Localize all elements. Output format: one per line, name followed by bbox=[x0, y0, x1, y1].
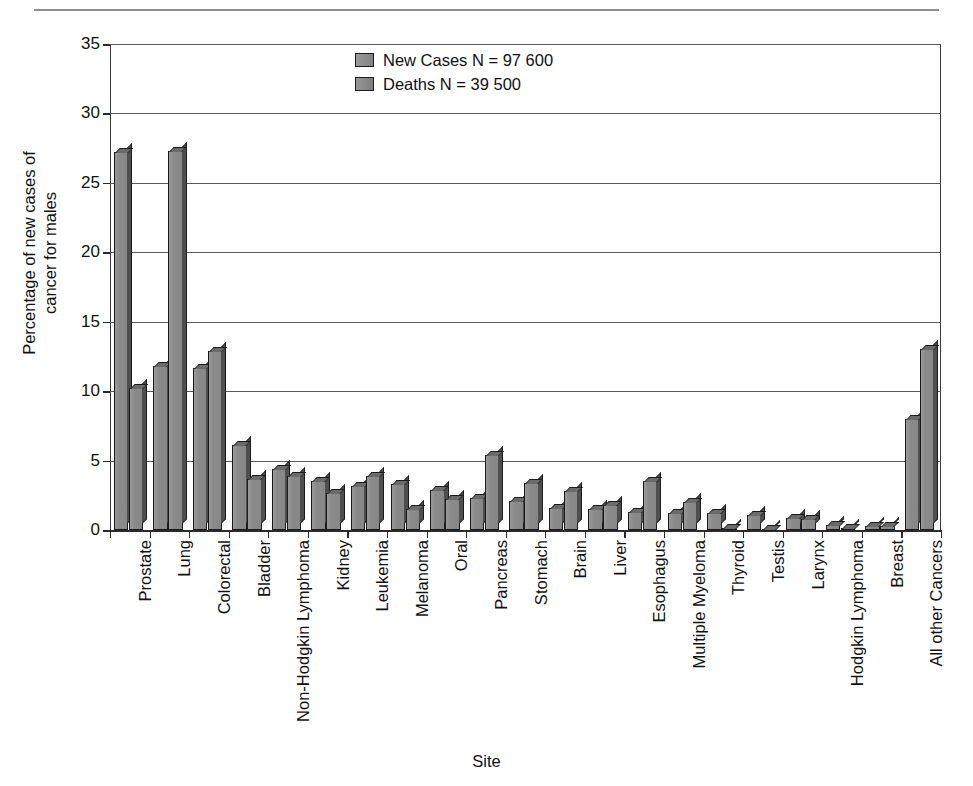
x-tick-17 bbox=[783, 530, 784, 538]
bar-new-cases-melanoma bbox=[391, 484, 406, 530]
y-tick-label-10: 10 bbox=[58, 382, 100, 399]
bar-face bbox=[802, 520, 815, 529]
gridline-15 bbox=[110, 322, 941, 323]
bar-face bbox=[446, 500, 459, 529]
category-label-lung: Lung bbox=[176, 540, 193, 577]
legend-swatch-new-cases bbox=[355, 53, 374, 67]
bar-new-cases-multiple-myeloma bbox=[668, 513, 683, 530]
bar-face bbox=[510, 502, 523, 529]
bar-deaths-testis bbox=[762, 529, 777, 531]
x-tick-11 bbox=[545, 530, 546, 538]
bar-face bbox=[273, 470, 286, 529]
bar-side-shadow bbox=[498, 446, 503, 524]
bar-face bbox=[921, 350, 934, 529]
bar-new-cases-brain bbox=[549, 508, 564, 530]
bar-new-cases-liver bbox=[588, 509, 603, 530]
gridline-0 bbox=[110, 530, 941, 532]
bar-deaths-lung bbox=[168, 151, 183, 530]
y-tick-mark-5 bbox=[103, 461, 110, 463]
bar-face bbox=[288, 477, 301, 529]
bar-face bbox=[486, 456, 499, 529]
y-tick-mark-25 bbox=[103, 183, 110, 185]
category-label-kidney: Kidney bbox=[335, 540, 352, 590]
bar-deaths-thyroid bbox=[722, 528, 737, 530]
gridline-25 bbox=[110, 183, 941, 184]
bar-deaths-all-other-cancers bbox=[920, 349, 935, 530]
legend-label-deaths: Deaths N = 39 500 bbox=[383, 72, 521, 96]
bar-side-shadow bbox=[182, 142, 187, 524]
bar-new-cases-non-hodgkin-lymphoma bbox=[272, 469, 287, 530]
bar-new-cases-thyroid bbox=[707, 513, 722, 530]
x-axis-title: Site bbox=[0, 752, 973, 771]
x-tick-10 bbox=[506, 530, 507, 538]
bar-face bbox=[525, 484, 538, 529]
bar-face bbox=[787, 519, 800, 529]
x-tick-6 bbox=[347, 530, 348, 538]
x-tick-20 bbox=[901, 530, 902, 538]
x-tick-14 bbox=[664, 530, 665, 538]
bar-deaths-breast bbox=[880, 526, 895, 530]
category-label-stomach: Stomach bbox=[533, 540, 550, 605]
x-tick-12 bbox=[585, 530, 586, 538]
category-label-thyroid: Thyroid bbox=[730, 540, 747, 595]
bar-side-shadow bbox=[933, 340, 938, 524]
bar-deaths-pancreas bbox=[485, 455, 500, 530]
bar-new-cases-bladder bbox=[232, 445, 247, 530]
bar-deaths-melanoma bbox=[406, 509, 421, 530]
category-label-prostate: Prostate bbox=[137, 540, 154, 601]
bar-face bbox=[684, 503, 697, 529]
bar-face bbox=[471, 499, 484, 529]
x-tick-1 bbox=[150, 530, 151, 538]
bar-face bbox=[194, 369, 207, 529]
category-label-leukemia: Leukemia bbox=[374, 540, 391, 612]
bar-side-shadow bbox=[221, 342, 226, 524]
x-tick-7 bbox=[387, 530, 388, 538]
x-tick-2 bbox=[189, 530, 190, 538]
legend-item-deaths: Deaths N = 39 500 bbox=[355, 72, 553, 96]
bar-new-cases-kidney bbox=[311, 481, 326, 530]
y-tick-mark-0 bbox=[103, 530, 110, 532]
gridline-20 bbox=[110, 252, 941, 253]
bar-side-shadow bbox=[142, 379, 147, 524]
y-tick-mark-10 bbox=[103, 391, 110, 393]
bar-face bbox=[906, 420, 919, 529]
x-tick-4 bbox=[268, 530, 269, 538]
category-label-all-other-cancers: All other Cancers bbox=[928, 540, 945, 667]
bar-face bbox=[367, 477, 380, 529]
bar-face bbox=[629, 513, 642, 529]
y-tick-mark-30 bbox=[103, 113, 110, 115]
bar-face bbox=[312, 482, 325, 529]
y-tick-label-20: 20 bbox=[58, 243, 100, 260]
legend-swatch-deaths bbox=[355, 77, 374, 91]
top-divider-rule bbox=[34, 9, 939, 11]
bar-face bbox=[392, 485, 405, 529]
x-tick-18 bbox=[822, 530, 823, 538]
y-axis-title: Percentage of new cases of cancer for ma… bbox=[19, 103, 61, 403]
y-tick-5: 5 bbox=[44, 452, 100, 469]
x-tick-5 bbox=[308, 530, 309, 538]
bar-deaths-kidney bbox=[326, 493, 341, 530]
bar-new-cases-colorectal bbox=[193, 368, 208, 530]
bar-face bbox=[115, 153, 128, 529]
y-tick-label-0: 0 bbox=[58, 521, 100, 538]
category-label-colorectal: Colorectal bbox=[216, 540, 233, 614]
x-tick-21 bbox=[941, 530, 942, 538]
bar-face bbox=[209, 352, 222, 529]
gridline-35 bbox=[110, 44, 941, 45]
bar-face bbox=[589, 510, 602, 529]
bar-face bbox=[881, 527, 894, 529]
bar-deaths-multiple-myeloma bbox=[683, 502, 698, 530]
x-tick-9 bbox=[466, 530, 467, 538]
y-tick-label-30: 30 bbox=[58, 104, 100, 121]
category-label-liver: Liver bbox=[612, 540, 629, 576]
bar-new-cases-larynx bbox=[786, 518, 801, 530]
bar-new-cases-hodgkin-lymphoma bbox=[826, 525, 841, 530]
bar-deaths-brain bbox=[564, 491, 579, 530]
x-tick-8 bbox=[427, 530, 428, 538]
bar-new-cases-all-other-cancers bbox=[905, 419, 920, 530]
bar-face bbox=[130, 389, 143, 529]
bar-deaths-liver bbox=[603, 505, 618, 530]
bar-new-cases-leukemia bbox=[351, 486, 366, 530]
category-label-pancreas: Pancreas bbox=[493, 540, 510, 610]
y-tick-35: 35 bbox=[44, 35, 100, 52]
